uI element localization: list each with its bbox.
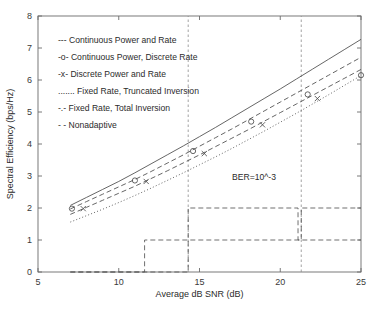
legend-entry-4: -.- Fixed Rate, Total Inversion — [58, 103, 170, 113]
x-tick-label: 25 — [356, 277, 366, 287]
vertical-reference-lines — [188, 16, 301, 272]
y-axis-tick-labels: 012345678 — [27, 11, 32, 277]
ber-annotation: BER=10^-3 — [232, 172, 276, 182]
legend-entry-2: -x- Discrete Power and Rate — [58, 69, 166, 79]
x-tick-label: 10 — [114, 277, 124, 287]
x-tick-label: 20 — [275, 277, 285, 287]
y-tick-label: 3 — [27, 171, 32, 181]
x-tick-label: 5 — [35, 277, 40, 287]
series-line — [70, 57, 361, 209]
x-tick-label: 15 — [194, 277, 204, 287]
legend-entry-3: ....... Fixed Rate, Truncated Inversion — [58, 86, 199, 96]
x-axis-label: Average dB SNR (dB) — [156, 289, 244, 299]
series-line — [70, 76, 361, 223]
series-line — [70, 208, 361, 272]
circle-marker — [249, 119, 254, 124]
cross-marker — [260, 122, 265, 127]
y-tick-label: 1 — [27, 235, 32, 245]
y-tick-label: 7 — [27, 43, 32, 53]
legend-entry-0: --- Continuous Power and Rate — [58, 35, 177, 45]
x-axis-tick-labels: 510152025 — [35, 277, 366, 287]
legend-entry-5: - - Nonadaptive — [58, 120, 117, 130]
cross-marker — [81, 206, 86, 211]
cross-marker — [315, 96, 320, 101]
y-tick-label: 8 — [27, 11, 32, 21]
chart-legend: --- Continuous Power and Rate-o- Continu… — [58, 35, 199, 130]
y-tick-label: 5 — [27, 107, 32, 117]
y-axis-label: Spectral Efficiency (bps/Hz) — [5, 89, 15, 199]
spectral-efficiency-chart: 510152025 012345678 Average dB SNR (dB) … — [0, 0, 380, 311]
legend-entry-1: -o- Continuous Power, Discrete Rate — [58, 52, 198, 62]
circle-marker — [305, 92, 310, 97]
y-tick-label: 0 — [27, 267, 32, 277]
figure-container: 510152025 012345678 Average dB SNR (dB) … — [0, 0, 380, 311]
y-tick-label: 6 — [27, 75, 32, 85]
y-tick-label: 2 — [27, 203, 32, 213]
y-tick-label: 4 — [27, 139, 32, 149]
